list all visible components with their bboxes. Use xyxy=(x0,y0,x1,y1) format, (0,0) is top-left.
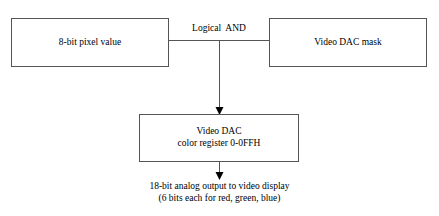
diagram-canvas: 8-bit pixel value Video DAC mask Logical… xyxy=(0,0,439,216)
box-video-dac: Video DAC color register 0-0FFH xyxy=(139,114,299,162)
output-caption: 18-bit analog output to video display (6… xyxy=(0,180,439,204)
output-caption-line1: 18-bit analog output to video display xyxy=(0,180,439,192)
output-caption-line2: (6 bits each for red, green, blue) xyxy=(0,192,439,204)
logical-and-label: Logical AND xyxy=(172,23,266,33)
box-video-dac-line2: color register 0-0FFH xyxy=(178,138,261,150)
box-pixel-value-label: 8-bit pixel value xyxy=(59,37,121,49)
arrowhead-into-output xyxy=(216,172,224,180)
box-video-dac-mask: Video DAC mask xyxy=(269,18,427,67)
box-pixel-value: 8-bit pixel value xyxy=(11,18,169,67)
box-video-dac-mask-label: Video DAC mask xyxy=(314,37,382,49)
box-video-dac-line1: Video DAC xyxy=(196,126,241,138)
